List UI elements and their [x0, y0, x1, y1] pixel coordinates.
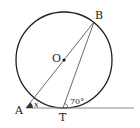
center-point	[62, 58, 65, 61]
angle-label-70: 70°	[70, 97, 84, 106]
label-o: O	[52, 52, 61, 65]
label-a: A	[14, 104, 24, 117]
angle-label-x: x	[34, 100, 39, 109]
line-ab	[26, 22, 94, 108]
geometry-diagram: A B O T x 70°	[0, 0, 140, 128]
label-t: T	[59, 111, 67, 124]
chord-bt	[63, 22, 94, 108]
label-b: B	[95, 9, 103, 22]
